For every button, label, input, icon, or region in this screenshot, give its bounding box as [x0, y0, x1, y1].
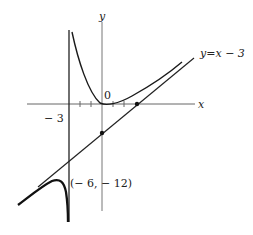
vertical-asymptote-label: − 3 [44, 112, 64, 125]
origin-label: 0 [104, 89, 111, 102]
local-max-label: (− 6, − 12) [70, 177, 132, 190]
left-branch-curve [18, 180, 68, 222]
oblique-asymptote-label: y=x − 3 [199, 47, 245, 60]
y-axis-label: y [98, 10, 106, 23]
right-branch-curve [72, 32, 182, 104]
function-graph: y x 0 − 3 y=x − 3 (− 6, − 12) [0, 0, 253, 235]
y-intercept-dot [100, 131, 104, 135]
x-axis-label: x [198, 98, 205, 111]
x-intercept-dot [135, 102, 139, 106]
